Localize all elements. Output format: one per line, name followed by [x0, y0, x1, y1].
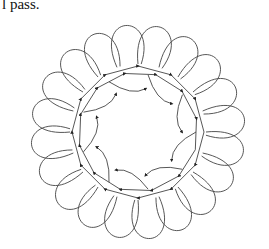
feather-wreath-diagram — [0, 0, 269, 249]
inner-curls — [83, 75, 196, 189]
outer-feathers — [31, 25, 244, 238]
